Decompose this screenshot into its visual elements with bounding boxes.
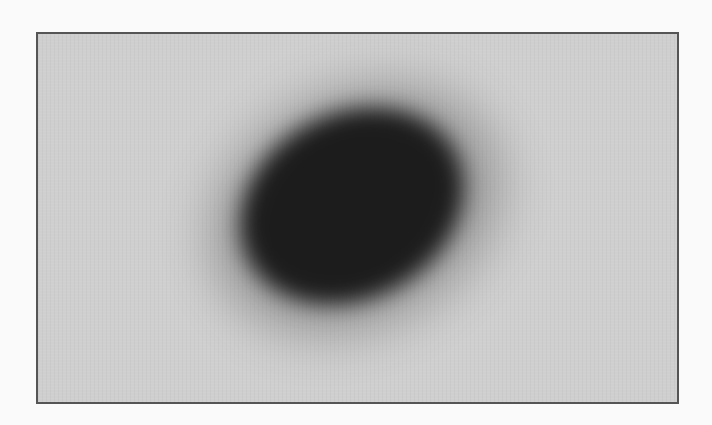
image-frame: [36, 32, 679, 404]
